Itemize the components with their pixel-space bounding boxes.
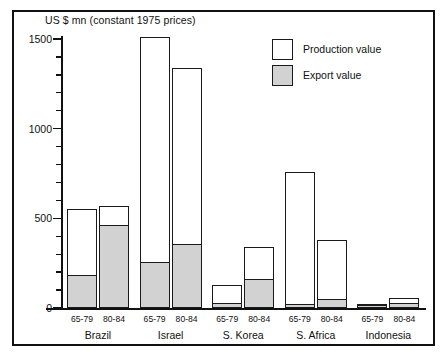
x-axis-period-label: 80-84 (321, 314, 343, 324)
bar-s-africa-80-84 (317, 240, 347, 308)
bar-export-segment (286, 304, 314, 307)
bar-s-africa-65-79 (285, 172, 315, 308)
chart-figure: US $ mn (constant 1975 prices) 050010001… (0, 0, 447, 356)
bar-israel-65-79 (140, 37, 170, 308)
bar-indonesia-65-79 (357, 304, 387, 308)
bar-export-segment (68, 275, 96, 307)
x-axis-group-label: S. Korea (223, 329, 264, 341)
x-axis-period-label: 65-79 (71, 314, 93, 324)
bar-export-segment (173, 244, 201, 307)
legend-item-export: Export value (272, 62, 381, 88)
x-axis-period-label: 65-79 (144, 314, 166, 324)
x-axis-period-label: 80-84 (248, 314, 270, 324)
bar-export-segment (213, 303, 241, 307)
bar-brazil-80-84 (99, 206, 129, 308)
bar-export-segment (358, 305, 386, 307)
x-axis-period-label: 65-79 (289, 314, 311, 324)
legend-label-export: Export value (303, 69, 361, 81)
chart-legend: Production value Export value (272, 36, 381, 88)
x-axis-period-label: 80-84 (393, 314, 415, 324)
bar-export-segment (318, 299, 346, 307)
x-axis-period-label: 65-79 (216, 314, 238, 324)
x-axis-group-label: Brazil (85, 329, 111, 341)
bar-s-korea-65-79 (212, 285, 242, 308)
x-axis-period-label: 65-79 (361, 314, 383, 324)
bar-export-segment (245, 279, 273, 307)
x-axis-group-label: S. Africa (296, 329, 335, 341)
bar-israel-80-84 (172, 68, 202, 308)
legend-swatch-production-icon (272, 39, 293, 60)
x-axis-period-label: 80-84 (176, 314, 198, 324)
legend-swatch-export-icon (272, 65, 293, 86)
x-axis-group-label: Indonesia (366, 329, 412, 341)
x-axis-period-label: 80-84 (103, 314, 125, 324)
bar-export-segment (141, 262, 169, 307)
x-axis-group-label: Israel (158, 329, 184, 341)
bar-indonesia-80-84 (389, 298, 419, 308)
legend-item-production: Production value (272, 36, 381, 62)
bar-export-segment (100, 225, 128, 307)
bar-brazil-65-79 (67, 209, 97, 308)
legend-label-production: Production value (303, 43, 381, 55)
bar-s-korea-80-84 (244, 247, 274, 308)
bar-export-segment (390, 303, 418, 307)
